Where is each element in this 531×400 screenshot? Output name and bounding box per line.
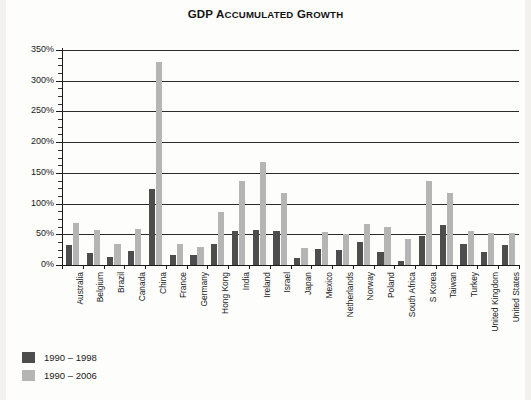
bar-1990-2006 (488, 233, 494, 265)
x-axis-category-label: Ireland (263, 272, 271, 298)
x-tick (83, 265, 84, 269)
y-axis-tick-label: 150% (8, 168, 54, 177)
legend-label: 1990 – 1998 (44, 352, 97, 363)
bar-1990-2006 (343, 234, 349, 265)
x-tick (311, 265, 312, 269)
x-axis-category-label: Canada (138, 272, 146, 301)
bar-1990-2006 (73, 223, 79, 265)
x-axis-category-label: China (159, 272, 167, 294)
bar-1990-2006 (260, 162, 266, 265)
bar-1990-2006 (447, 193, 453, 265)
bar-1990-1998 (170, 255, 176, 265)
x-tick (291, 265, 292, 269)
x-tick (457, 265, 458, 269)
x-tick (353, 265, 354, 269)
bar-1990-1998 (190, 255, 196, 265)
y-axis-tick-label: 250% (8, 106, 54, 115)
gridline-350 (62, 50, 519, 51)
x-axis-category-label: Netherlands (346, 272, 354, 317)
bar-1990-1998 (232, 231, 238, 265)
x-axis-category-label: Israel (283, 272, 291, 292)
x-tick (249, 265, 250, 269)
bar-1990-1998 (460, 244, 466, 266)
bar-1990-2006 (156, 62, 162, 265)
y-axis-tick-label: 350% (8, 45, 54, 54)
x-tick (374, 265, 375, 269)
gridline-250 (62, 111, 519, 112)
x-tick (166, 265, 167, 269)
bar-1990-1998 (357, 242, 363, 265)
x-tick (332, 265, 333, 269)
chart-title: GDP ACCUMULATED GROWTH (0, 8, 531, 20)
bar-1990-1998 (128, 251, 134, 265)
gridline-300 (62, 81, 519, 82)
x-axis-category-label: Mexico (325, 272, 333, 299)
legend-item: 1990 – 2006 (22, 370, 97, 381)
x-tick (228, 265, 229, 269)
bar-1990-2006 (218, 212, 224, 265)
bar-1990-2006 (468, 231, 474, 265)
x-tick (477, 265, 478, 269)
bar-1990-2006 (177, 244, 183, 266)
x-axis-category-label: Brazil (117, 272, 125, 293)
bar-1990-1998 (336, 250, 342, 265)
bar-1990-2006 (114, 244, 120, 265)
legend-item: 1990 – 1998 (22, 352, 97, 363)
legend-swatch (22, 370, 35, 381)
bar-1990-2006 (405, 239, 411, 265)
x-axis-category-label: Japan (304, 272, 312, 295)
y-axis-tick-label: 300% (8, 76, 54, 85)
bar-1990-1998 (149, 189, 155, 265)
bar-1990-1998 (419, 236, 425, 265)
bar-1990-2006 (384, 227, 390, 265)
bar-1990-2006 (364, 224, 370, 265)
bar-1990-1998 (481, 252, 487, 266)
bar-1990-2006 (322, 232, 328, 265)
page-edge-right (525, 0, 531, 400)
x-tick (207, 265, 208, 269)
bar-1990-1998 (502, 245, 508, 265)
x-tick (145, 265, 146, 269)
x-axis-category-label: Norway (366, 272, 374, 300)
x-tick (62, 265, 63, 269)
legend-swatch (22, 352, 35, 363)
bar-1990-2006 (135, 229, 141, 265)
x-axis-category-label: United States (512, 272, 520, 322)
gridline-150 (62, 173, 519, 174)
plot-area (62, 50, 519, 265)
y-axis-tick-label: 100% (8, 199, 54, 208)
bar-1990-1998 (273, 231, 279, 265)
bar-1990-2006 (197, 247, 203, 265)
x-tick (415, 265, 416, 269)
x-axis-category-label: India (242, 272, 250, 290)
bar-1990-1998 (377, 252, 383, 266)
bar-1990-1998 (315, 249, 321, 265)
x-axis-category-label: Germany (200, 272, 208, 306)
bar-1990-2006 (301, 248, 307, 265)
bar-1990-1998 (253, 230, 259, 265)
x-axis-category-label: S Korea (429, 272, 437, 302)
x-axis-category-label: Australia (76, 272, 84, 305)
x-tick (436, 265, 437, 269)
y-axis-tick-label: 200% (8, 137, 54, 146)
legend-label: 1990 – 2006 (44, 370, 97, 381)
y-axis-tick-label: 50% (8, 229, 54, 238)
bar-1990-1998 (440, 225, 446, 265)
bar-1990-2006 (239, 181, 245, 265)
x-axis-category-label: France (179, 272, 187, 298)
x-axis-category-label: Hong Kong (221, 272, 229, 314)
x-tick (394, 265, 395, 269)
x-tick (187, 265, 188, 269)
bar-1990-1998 (66, 245, 72, 265)
x-axis-category-label: United Kingdom (491, 272, 499, 332)
y-axis-labels: 0%50%100%150%200%250%300%350% (0, 0, 54, 400)
bar-1990-1998 (211, 244, 217, 266)
x-axis-category-label: Poland (387, 272, 395, 298)
bar-1990-2006 (509, 233, 515, 265)
x-axis-category-label: Taiwan (449, 272, 457, 298)
bar-1990-1998 (294, 258, 300, 265)
x-tick (270, 265, 271, 269)
x-tick (519, 265, 520, 269)
chart-figure: GDP ACCUMULATED GROWTH 0%50%100%150%200%… (0, 0, 531, 400)
x-tick (498, 265, 499, 269)
